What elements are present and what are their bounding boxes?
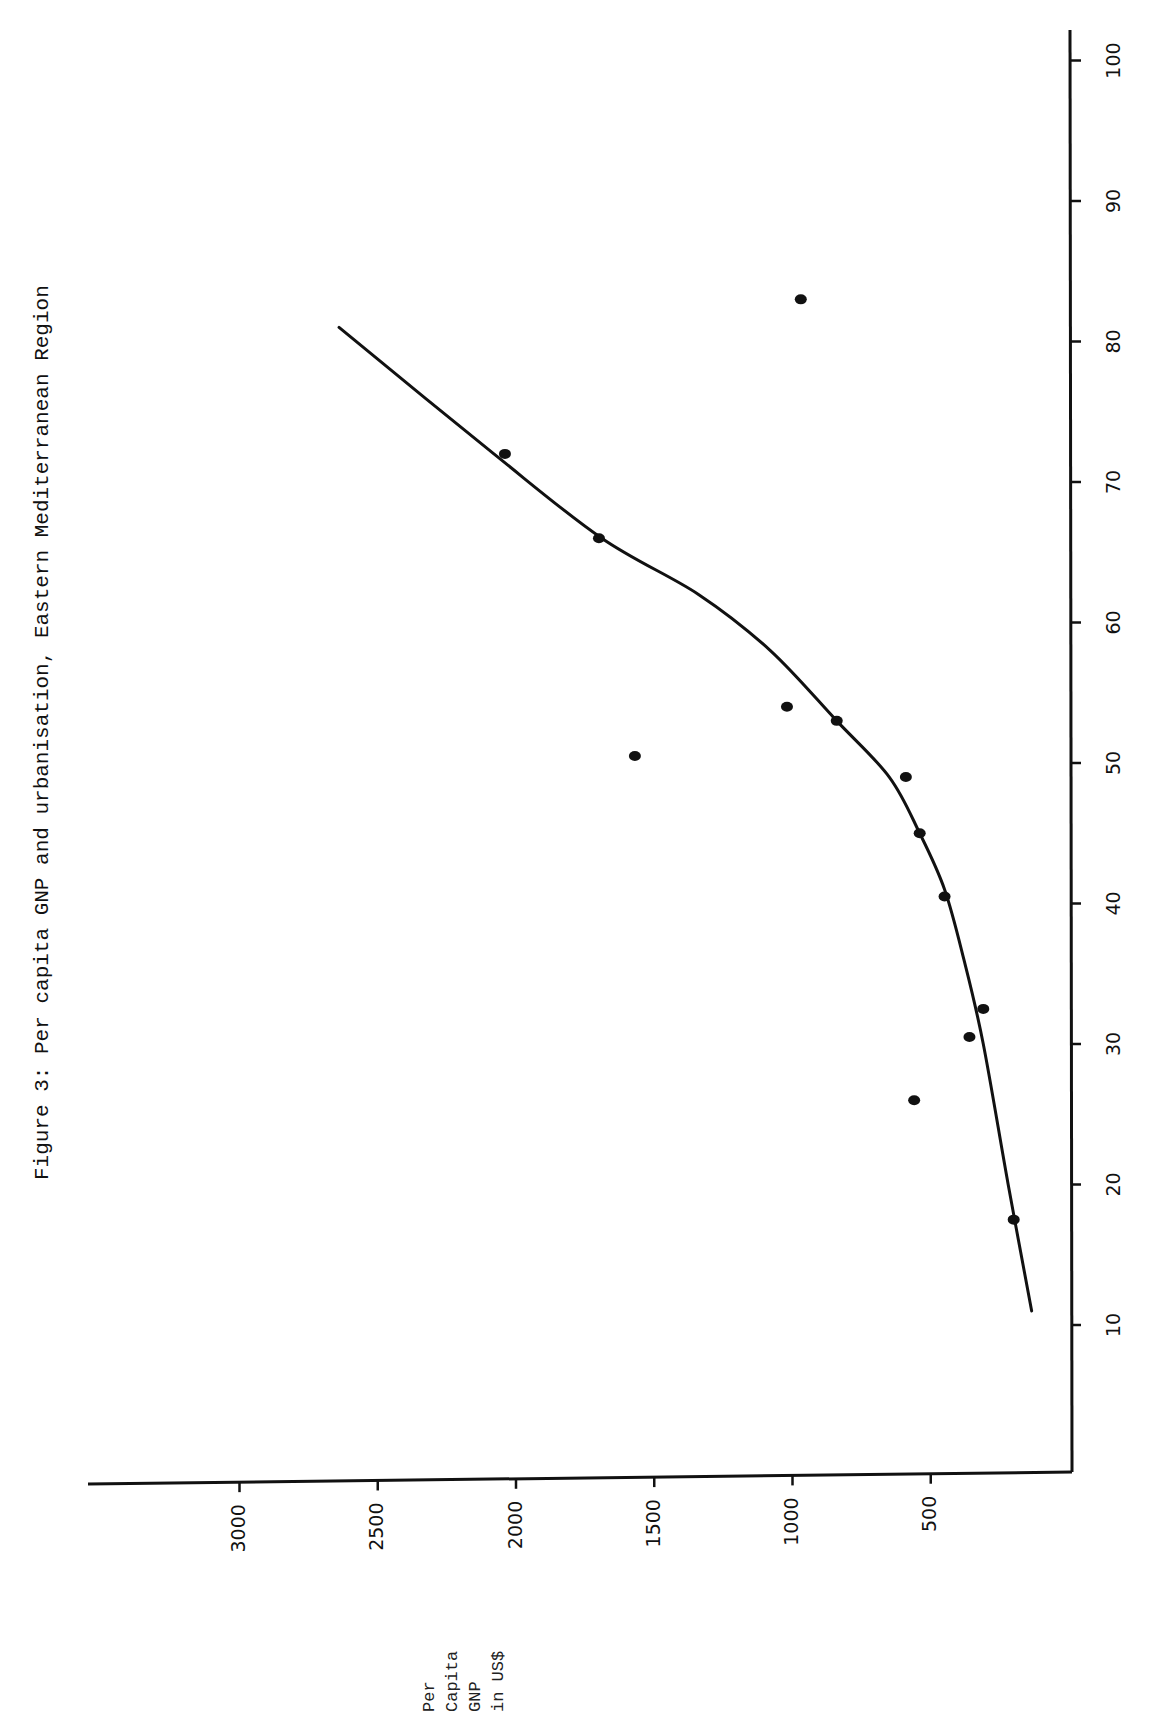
urbanisation-tick-label: 30 (1102, 1032, 1124, 1056)
data-point (629, 751, 641, 761)
data-point (831, 716, 843, 726)
urbanisation-axis-ticks: 102030405060708090100 (1071, 42, 1124, 1337)
gnp-axis-ticks: 50010001500200025003000 (227, 1474, 940, 1553)
data-points (499, 294, 1020, 1224)
urbanisation-tick-label: 90 (1102, 189, 1124, 213)
data-point (939, 891, 951, 901)
data-point (977, 1004, 989, 1014)
data-point (900, 772, 912, 782)
gnp-axis-line (88, 1472, 1072, 1484)
urbanisation-tick-label: 100 (1102, 42, 1124, 78)
urbanisation-tick-label: 50 (1102, 751, 1124, 775)
data-point (781, 702, 793, 712)
urbanisation-tick-label: 60 (1102, 610, 1124, 634)
data-point (908, 1095, 920, 1105)
urbanisation-tick-label: 70 (1102, 470, 1124, 494)
gnp-axis-title-line: in US$ (489, 1651, 508, 1712)
gnp-axis-title-line: Capita (443, 1651, 462, 1712)
data-point (593, 533, 605, 543)
gnp-axis-title-line: Per (420, 1681, 439, 1712)
urbanisation-tick-label: 20 (1102, 1172, 1124, 1196)
urbanisation-tick-label: 80 (1102, 329, 1124, 353)
scatter-chart: Figure 3: Per capita GNP and urbanisatio… (0, 0, 1162, 1732)
data-point (914, 828, 926, 838)
gnp-tick-label: 1000 (780, 1497, 802, 1545)
urbanisation-tick-label: 40 (1102, 891, 1124, 915)
gnp-tick-label: 3000 (227, 1504, 249, 1552)
gnp-tick-label: 1500 (642, 1499, 664, 1547)
axes: 102030405060708090100 500100015002000250… (88, 30, 1124, 1553)
trend-line (339, 327, 1032, 1310)
gnp-tick-label: 2000 (504, 1501, 526, 1549)
gnp-axis-title: PerCapitaGNPin US$ (420, 1651, 508, 1712)
urbanisation-axis-line (1070, 30, 1072, 1472)
data-point (795, 294, 807, 304)
urbanisation-tick-label: 10 (1102, 1313, 1124, 1337)
figure-title: Figure 3: Per capita GNP and urbanisatio… (31, 285, 54, 1180)
data-point (1008, 1215, 1020, 1225)
data-point (963, 1032, 975, 1042)
gnp-tick-label: 500 (918, 1496, 940, 1532)
gnp-tick-label: 2500 (365, 1502, 387, 1550)
data-point (499, 449, 511, 459)
gnp-axis-title-line: GNP (466, 1681, 485, 1712)
